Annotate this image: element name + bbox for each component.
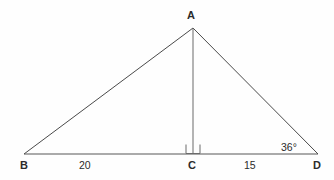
segment-ad (193, 28, 318, 154)
vertex-label-b: B (20, 160, 28, 171)
geometry-diagram: A B C D 20 15 36° (0, 0, 334, 180)
vertex-label-d: D (313, 160, 321, 171)
segment-ab (24, 28, 193, 154)
measure-label-cd: 15 (244, 160, 256, 171)
figure-canvas (0, 0, 334, 180)
measure-label-bc: 20 (79, 160, 91, 171)
vertex-label-a: A (187, 10, 195, 21)
angle-label-d: 36° (281, 142, 297, 153)
vertex-label-c: C (188, 160, 196, 171)
